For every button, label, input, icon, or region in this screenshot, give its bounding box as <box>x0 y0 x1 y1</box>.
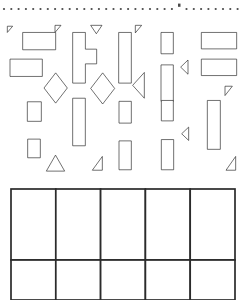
cut-line-dot <box>207 8 209 10</box>
cut-line-dot <box>76 8 78 10</box>
cut-line-dot <box>185 8 187 10</box>
cut-line-dot <box>91 8 93 10</box>
cut-line-dot <box>25 8 27 10</box>
cut-line-dot <box>215 8 217 10</box>
cut-line-dot <box>156 8 158 10</box>
cut-line-dot <box>54 8 56 10</box>
cut-line-dot <box>142 8 144 10</box>
cut-line-dot <box>10 8 12 10</box>
cut-line-dot <box>69 8 71 10</box>
cut-line-dot <box>120 8 122 10</box>
cut-line-dot <box>18 8 20 10</box>
cut-line-dot <box>200 8 202 10</box>
cut-line-dot <box>171 8 173 10</box>
cut-line-dot <box>222 8 224 10</box>
cut-line-dot <box>32 8 34 10</box>
cut-line-dot <box>237 8 239 10</box>
cut-line-dot <box>47 8 49 10</box>
cut-line-layer <box>0 0 246 300</box>
cut-line-svg <box>0 0 246 300</box>
cut-line-dot <box>105 8 107 10</box>
dotted-cut-line <box>3 4 239 11</box>
cut-line-dot <box>134 8 136 10</box>
cut-line-dot <box>149 8 151 10</box>
cut-line-dot <box>164 8 166 10</box>
cut-line-dot <box>3 8 5 10</box>
worksheet-page: Shapes Sorting Worksheet Worksheet with … <box>0 0 246 300</box>
cut-line-dot <box>61 8 63 10</box>
cut-line-dot <box>98 8 100 10</box>
cut-line-dot <box>229 8 231 10</box>
cut-line-dot <box>112 8 114 10</box>
cut-line-dot <box>127 8 129 10</box>
cut-line-dot <box>193 8 195 10</box>
cut-line-marker-dot <box>178 4 181 7</box>
cut-line-dot <box>83 8 85 10</box>
cut-line-dot <box>39 8 41 10</box>
